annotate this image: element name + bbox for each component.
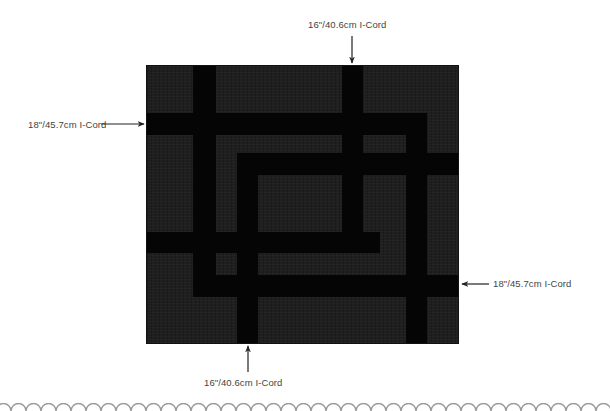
scalloped-border: [0, 403, 610, 411]
arrows-layer: [0, 0, 610, 411]
